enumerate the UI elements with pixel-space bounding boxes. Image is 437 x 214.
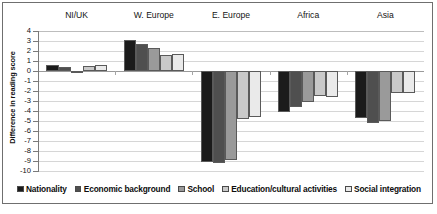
category-labels: NI/UKW. EuropeE. EuropeAfricaAsia: [38, 10, 424, 26]
y-axis-tick: -4: [33, 111, 38, 112]
legend-item: Economic background: [75, 184, 171, 194]
y-axis-tick: -8: [33, 151, 38, 152]
y-axis-tick-label: 2: [27, 46, 31, 55]
category-label-w-europe: W. Europe: [115, 10, 192, 20]
y-axis-tick: 1: [33, 61, 38, 62]
bar: [59, 67, 71, 71]
bar: [46, 65, 58, 72]
group-separator: [347, 71, 348, 75]
y-axis-tick: 4: [33, 31, 38, 32]
y-axis-tick-label: -9: [24, 156, 31, 165]
category-label-e-europe: E. Europe: [192, 10, 269, 20]
y-axis-tick-label: -2: [24, 86, 31, 95]
y-axis-tick-label: -1: [24, 76, 31, 85]
legend-label: Social integration: [354, 184, 421, 194]
bar: [95, 65, 107, 71]
y-axis-tick: -5: [33, 121, 38, 122]
bar: [302, 71, 314, 102]
y-axis-tick: -3: [33, 101, 38, 102]
y-axis-tick-label: 1: [27, 56, 31, 65]
bar: [124, 40, 136, 71]
bar: [160, 55, 172, 71]
y-axis-tick: -10: [33, 171, 38, 172]
chart-legend: NationalityEconomic backgroundSchoolEduc…: [3, 178, 432, 200]
bar: [148, 48, 160, 72]
y-axis-tick-label: 4: [27, 26, 31, 35]
y-axis-tick: 0: [33, 71, 38, 72]
legend-label: Education/cultural activities: [231, 184, 337, 194]
legend-label: School: [187, 184, 214, 194]
bar: [278, 71, 290, 112]
legend-item: Nationality: [17, 184, 67, 194]
y-axis-tick: -7: [33, 141, 38, 142]
y-axis-tick-label: 0: [27, 66, 31, 75]
gridline: [38, 171, 424, 172]
bar: [326, 71, 338, 97]
category-label-asia: Asia: [347, 10, 424, 20]
y-axis-tick: -9: [33, 161, 38, 162]
y-axis-tick: -2: [33, 91, 38, 92]
legend-swatch-icon: [178, 186, 185, 193]
legend-swatch-icon: [75, 186, 82, 193]
bar: [201, 71, 213, 162]
bar: [391, 71, 403, 93]
legend-item: Social integration: [345, 184, 421, 194]
bar: [290, 71, 302, 107]
y-axis-tick: 2: [33, 51, 38, 52]
legend-label: Economic background: [84, 184, 171, 194]
legend-swatch-icon: [345, 186, 352, 193]
y-axis-tick-label: 3: [27, 36, 31, 45]
legend-item: Education/cultural activities: [222, 184, 337, 194]
y-axis-tick: -1: [33, 81, 38, 82]
bar: [314, 71, 326, 96]
group-separator: [270, 71, 271, 75]
bar: [367, 71, 379, 123]
category-label-africa: Africa: [270, 10, 347, 20]
bar: [249, 71, 261, 117]
group-separator: [115, 71, 116, 75]
y-axis-tick: -6: [33, 131, 38, 132]
chart-container: Difference in reading score NI/UKW. Euro…: [0, 0, 437, 214]
bar: [71, 71, 83, 73]
bar: [237, 71, 249, 119]
bar: [172, 54, 184, 71]
y-axis-tick-label: -8: [24, 146, 31, 155]
category-label-ni-uk: NI/UK: [38, 10, 115, 20]
bar: [355, 71, 367, 118]
plot-area: [38, 31, 424, 171]
legend-item: School: [178, 184, 214, 194]
group-separator: [192, 71, 193, 75]
bar: [136, 44, 148, 72]
legend-label: Nationality: [26, 184, 67, 194]
bars-layer: [38, 31, 424, 171]
bar: [83, 66, 95, 71]
y-axis-tick-label: -6: [24, 126, 31, 135]
y-axis-line: [38, 31, 39, 172]
legend-swatch-icon: [17, 186, 24, 193]
bar: [403, 71, 415, 93]
bar: [379, 71, 391, 121]
bar: [213, 71, 225, 163]
bar: [225, 71, 237, 160]
y-axis-tick-label: -10: [20, 166, 31, 175]
y-axis-tick-label: -7: [24, 136, 31, 145]
y-axis-tick-label: -3: [24, 96, 31, 105]
legend-swatch-icon: [222, 186, 229, 193]
y-axis-tick-label: -4: [24, 106, 31, 115]
y-axis-title: Difference in reading score: [8, 33, 17, 163]
y-axis-tick: 3: [33, 41, 38, 42]
y-axis-tick-label: -5: [24, 116, 31, 125]
